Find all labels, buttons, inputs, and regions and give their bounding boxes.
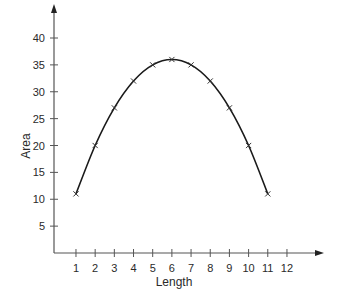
data-point-markers: [73, 57, 270, 197]
x-tick-label: 11: [262, 262, 273, 274]
area-curve-path: [76, 60, 268, 194]
x-tick-label: 7: [188, 262, 194, 274]
x-tick-label: 12: [281, 262, 293, 274]
x-axis: [54, 250, 324, 256]
data-point-x-marker-icon: [227, 105, 232, 110]
y-tick-label: 15: [33, 166, 45, 178]
data-point-x-marker-icon: [188, 62, 193, 67]
x-axis-arrow-icon: [315, 250, 324, 256]
x-tick-label: 3: [111, 262, 117, 274]
x-tick-label: 1: [73, 262, 79, 274]
y-tick-label: 20: [33, 140, 45, 152]
x-axis-label: Length: [156, 275, 193, 289]
y-axis-label: Area: [19, 133, 33, 159]
x-tick-label: 5: [150, 262, 156, 274]
x-tick-label: 8: [207, 262, 213, 274]
y-axis-arrow-icon: [51, 4, 57, 13]
x-tick-label: 4: [130, 262, 136, 274]
line-chart: 510152025303540 123456789101112 Length A…: [0, 0, 338, 302]
data-point-x-marker-icon: [208, 78, 213, 83]
x-tick-label: 9: [226, 262, 232, 274]
x-tick-label: 10: [242, 262, 254, 274]
y-tick-label: 35: [33, 59, 45, 71]
data-point-x-marker-icon: [131, 78, 136, 83]
area-curve: [76, 60, 268, 194]
y-tick-label: 25: [33, 113, 45, 125]
data-point-x-marker-icon: [112, 105, 117, 110]
x-tick-label: 6: [169, 262, 175, 274]
y-tick-label: 10: [33, 193, 45, 205]
y-axis: [51, 4, 57, 253]
y-tick-label: 30: [33, 86, 45, 98]
y-tick-label: 40: [33, 32, 45, 44]
y-tick-label: 5: [39, 220, 45, 232]
data-point-x-marker-icon: [150, 62, 155, 67]
x-tick-label: 2: [92, 262, 98, 274]
